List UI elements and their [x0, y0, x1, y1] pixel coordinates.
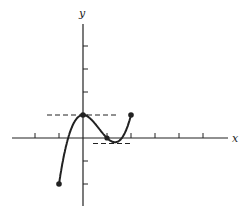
y-axis-label: y [78, 7, 86, 20]
function-curve [59, 115, 131, 184]
point-0-1 [80, 112, 86, 118]
point-1-0 [104, 135, 109, 140]
point-2-1 [128, 112, 134, 118]
x-axis-label: x [232, 132, 239, 145]
x-ticks [35, 133, 203, 138]
function-graph: y x [0, 0, 244, 214]
point-neg1-neg2 [56, 181, 62, 187]
